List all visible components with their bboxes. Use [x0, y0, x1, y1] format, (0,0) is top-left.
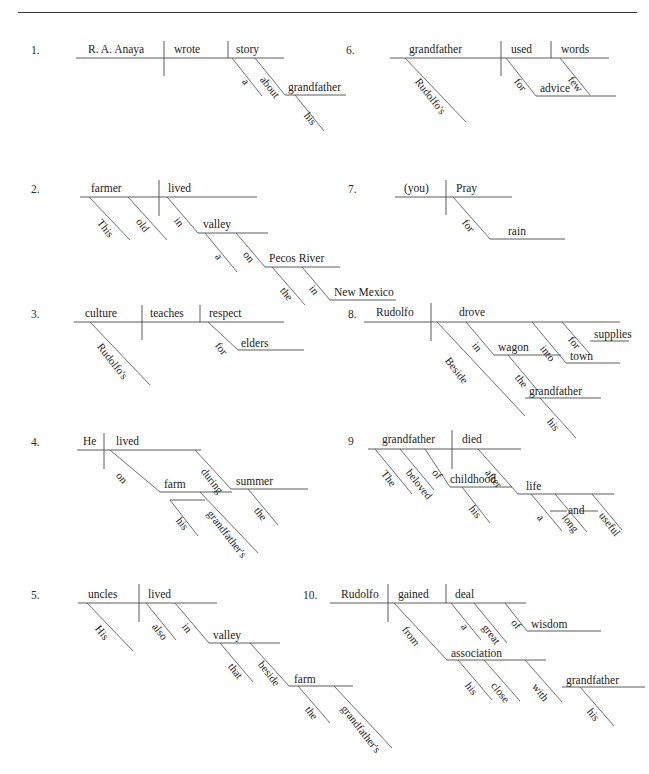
- word-verb-7: Pray: [456, 183, 477, 195]
- word-possessive2-5: grandfather's: [339, 703, 383, 755]
- header-rule: [18, 12, 637, 13]
- word-possessive-8: his: [545, 416, 562, 433]
- word-prep1-8: in: [470, 340, 484, 354]
- word-prep4-8: Beside: [443, 355, 470, 385]
- word-mod2-2: old: [134, 216, 151, 234]
- word-prep2-object-10: association: [451, 648, 502, 660]
- item-number-5: 5.: [31, 589, 40, 601]
- word-mod1-5: that: [226, 661, 245, 681]
- word-subject-6: grandfather: [409, 44, 462, 56]
- word-prep-object-1: grandfather: [288, 82, 341, 94]
- word-prep3-10: with: [530, 681, 551, 703]
- item-number-6: 6.: [346, 44, 355, 56]
- word-verb-6: used: [511, 44, 532, 56]
- item-number-3: 3.: [31, 308, 40, 320]
- word-verb-4: lived: [116, 436, 139, 448]
- word-prep4-object-8: grandfather: [529, 386, 582, 398]
- word-prep-object-7: rain: [508, 226, 526, 238]
- word-prep2-8: into: [538, 343, 557, 363]
- word-prep1-2: in: [172, 215, 186, 229]
- word-article-9: a: [535, 512, 547, 523]
- word-mod-10: great: [480, 622, 502, 646]
- word-verb-10: gained: [398, 589, 429, 601]
- word-mod2-9: beloved: [404, 467, 434, 501]
- word-prep1-10: of: [509, 617, 523, 631]
- word-possessive-1: his: [302, 110, 319, 127]
- word-possessive-3: Rudolfo's: [95, 341, 130, 381]
- word-verb-5: lived: [148, 589, 171, 601]
- word-possessive-6: Rudolfo's: [413, 76, 448, 116]
- word-prep2-4: during: [199, 466, 225, 495]
- word-possessive1-10: his: [463, 680, 480, 697]
- word-subject-7: (you): [404, 183, 429, 195]
- word-verb-9: died: [462, 434, 482, 446]
- word-prep2-9: after: [483, 467, 504, 490]
- word-prep1-object-8: wagon: [498, 342, 529, 354]
- word-prep2-object-2: Pecos River: [269, 253, 324, 265]
- word-article1-2: a: [213, 251, 225, 262]
- word-subject-4: He: [83, 436, 96, 448]
- word-object-10: deal: [455, 589, 474, 601]
- word-prep1-object-10: wisdom: [531, 619, 567, 631]
- item-number-9: 9: [348, 435, 354, 447]
- word-prep-object-6: advice: [540, 83, 570, 95]
- word-prep1-object-5: valley: [213, 630, 241, 642]
- word-prep1-5: in: [180, 621, 194, 635]
- word-verb-2: lived: [168, 183, 191, 195]
- word-verb-3: teaches: [150, 308, 184, 320]
- word-verb-8: drove: [459, 307, 485, 319]
- item-number-1: 1.: [31, 44, 40, 56]
- word-subject-1: R. A. Anaya: [88, 44, 144, 56]
- word-possessive1-4: grandfather's: [205, 508, 249, 560]
- word-prep3-2: in: [307, 283, 321, 297]
- word-mod1-2: This: [95, 217, 116, 239]
- diagram-8-lines: [364, 303, 629, 438]
- word-object-3: respect: [209, 308, 242, 320]
- word-subject-8: Rudolfo: [376, 307, 414, 319]
- item-number-10: 10.: [303, 589, 317, 601]
- word-prep-6: for: [512, 76, 529, 93]
- word-adverb-5: also: [150, 621, 170, 642]
- word-prep3-object-10: grandfather: [566, 675, 619, 687]
- word-article2-2: the: [278, 285, 295, 302]
- word-subject-5: uncles: [88, 589, 117, 601]
- word-article-4: the: [252, 505, 269, 522]
- word-subject-9: grandfather: [382, 434, 435, 446]
- word-mod2-10: close: [489, 680, 512, 705]
- word-prep3-object-2: New Mexico: [334, 287, 394, 299]
- word-object-6: words: [561, 44, 589, 56]
- item-number-2: 2.: [31, 183, 40, 195]
- word-article1-8: the: [513, 372, 530, 389]
- word-possessive-5: His: [93, 623, 111, 642]
- word-possessive2-4: his: [174, 515, 191, 532]
- word-article-5: the: [303, 704, 320, 721]
- word-verb-1: wrote: [174, 44, 200, 56]
- word-article-1: a: [240, 76, 252, 87]
- word-prep-7: for: [460, 217, 477, 234]
- word-adj2-9: useful: [597, 510, 622, 538]
- word-prep2-5: beside: [256, 659, 282, 688]
- diagram-4-lines: [77, 433, 308, 553]
- item-number-7: 7.: [348, 183, 357, 195]
- word-possessive2-10: his: [585, 706, 602, 723]
- word-object-1: story: [236, 44, 259, 56]
- item-number-8: 8.: [348, 308, 357, 320]
- word-prep1-4: on: [114, 470, 129, 485]
- word-mod1-9: The: [379, 468, 398, 488]
- worksheet-page: 1. R. A. Anaya wrote story a about grand…: [0, 0, 649, 774]
- word-prep2-object-4: summer: [236, 476, 273, 488]
- word-prep2-10: from: [400, 624, 422, 648]
- word-prep3-8: for: [566, 334, 583, 351]
- word-prep3-object-8: supplies: [594, 329, 632, 341]
- word-prep2-object-9: life: [526, 481, 541, 493]
- word-subject-3: culture: [85, 308, 117, 320]
- word-subject-10: Rudolfo: [341, 589, 379, 601]
- word-subject-2: farmer: [91, 183, 122, 195]
- item-number-4: 4.: [31, 436, 40, 448]
- word-prep-object-3: elders: [241, 338, 268, 350]
- word-prep-1: about: [258, 74, 282, 100]
- word-possessive-9: his: [467, 503, 484, 520]
- word-prep2-2: on: [241, 249, 256, 264]
- word-prep1-object-2: valley: [203, 219, 231, 231]
- word-article-10: a: [459, 621, 471, 632]
